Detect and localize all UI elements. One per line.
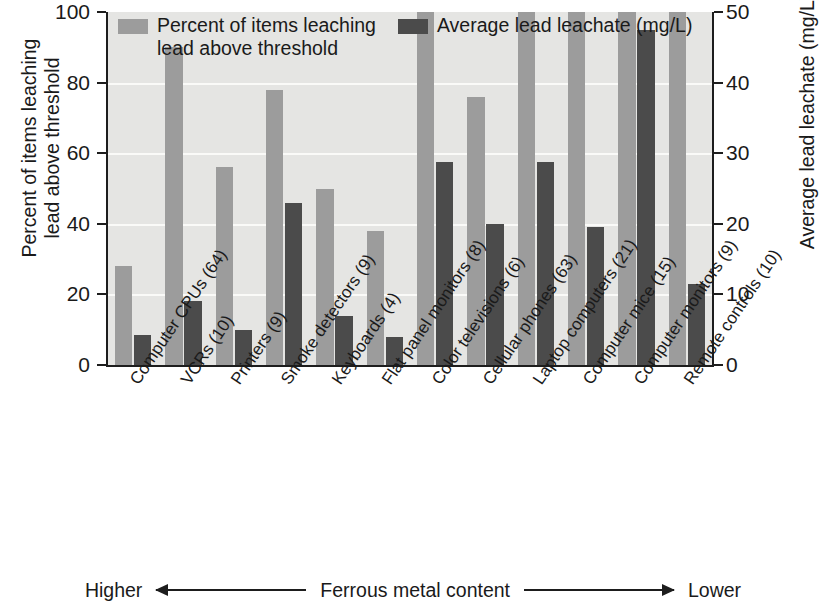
bar-group <box>108 12 158 365</box>
axis-tick-label: 40 <box>726 72 786 93</box>
axis-tick <box>97 293 106 295</box>
axis-tick <box>714 11 723 13</box>
axis-tick <box>714 82 723 84</box>
plot-area <box>108 12 712 365</box>
axis-tick-label: 50 <box>726 1 786 22</box>
legend-label-average-leachate: Average lead leachate (mg/L) <box>437 14 692 37</box>
axis-tick-label: 20 <box>726 213 786 234</box>
bar-average-leachate <box>285 203 303 365</box>
axis-tick <box>97 223 106 225</box>
bar-percent-leaching <box>115 266 133 365</box>
axis-tick-label: 100 <box>30 1 90 22</box>
bar-group <box>259 12 309 365</box>
legend-swatch-icon <box>398 19 428 34</box>
ferrous-metal-content-annotation: Higher Ferrous metal content Lower <box>0 575 826 605</box>
bar-average-leachate <box>436 162 454 365</box>
legend-swatch-icon <box>118 19 148 34</box>
arrow-left-icon <box>156 589 306 591</box>
legend-label-percent-leaching: Percent of items leaching lead above thr… <box>157 14 376 61</box>
y-axis-right-title: Average lead leachate (mg/L) <box>796 0 819 267</box>
bar-average-leachate <box>537 162 555 365</box>
bar-group <box>209 12 259 365</box>
axis-tick-label: 30 <box>726 142 786 163</box>
legend-item-average-leachate: Average lead leachate (mg/L) <box>398 14 692 37</box>
axis-tick <box>714 293 723 295</box>
axis-tick <box>714 152 723 154</box>
axis-tick <box>97 82 106 84</box>
axis-tick <box>714 223 723 225</box>
y-axis-right <box>712 12 714 367</box>
legend-item-percent-leaching: Percent of items leaching lead above thr… <box>118 14 376 61</box>
footer-label-higher: Higher <box>85 579 142 602</box>
chart-root: 020406080100 01020304050 Percent of item… <box>0 0 826 608</box>
y-axis-left <box>106 12 108 367</box>
bar-series-container <box>108 12 712 365</box>
axis-tick-label: 20 <box>30 283 90 304</box>
footer-label-lower: Lower <box>688 579 741 602</box>
axis-tick <box>97 152 106 154</box>
axis-tick <box>97 11 106 13</box>
chart-legend: Percent of items leaching lead above thr… <box>118 14 692 61</box>
y-axis-left-title: Percent of items leaching lead above thr… <box>18 23 64 273</box>
x-axis-category-labels: Computer CPUs (64)VCRs (10)Printers (9)S… <box>0 366 826 566</box>
arrow-right-icon <box>524 589 674 591</box>
footer-label-center: Ferrous metal content <box>320 579 510 602</box>
